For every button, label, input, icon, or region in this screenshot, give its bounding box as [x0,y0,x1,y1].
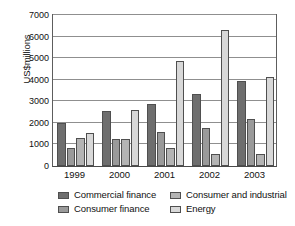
bar [102,111,111,166]
bar-groups [53,15,276,166]
plot-area: 01000200030004000500060007000 [52,14,277,167]
bar [266,77,275,166]
bar [237,81,246,166]
bar [76,138,85,166]
x-axis-tick-label: 2001 [142,170,187,180]
bar [247,119,256,166]
legend-item[interactable]: Commercial finance [58,189,156,201]
x-axis-tick-label: 2003 [232,170,277,180]
bar [131,110,140,166]
x-axis-tick-label: 2002 [187,170,232,180]
bar-group [233,15,278,166]
y-axis-tick-label: 2000 [29,118,49,127]
y-axis-tick-label: 3000 [29,97,49,106]
legend-swatch-icon [170,206,181,213]
legend-item[interactable]: Consumer and industrial [170,189,287,201]
legend-label: Energy [186,204,216,214]
legend-item[interactable]: Energy [170,203,216,215]
bar-group [98,15,143,166]
bar [192,94,201,166]
y-axis-tick-label: 0 [44,162,49,171]
legend-label: Commercial finance [74,190,156,200]
bar [147,104,156,166]
x-axis-tick-label: 1999 [52,170,97,180]
legend-label: Consumer and industrial [186,190,287,200]
bar [221,30,230,166]
bar [166,148,175,166]
bar [256,154,265,166]
bar-chart-figure: US$millions 0100020003000400050006000700… [0,0,295,226]
bar [57,123,66,166]
y-axis-tick-label: 1000 [29,140,49,149]
bar-group [53,15,98,166]
legend-item[interactable]: Consumer finance [58,203,150,215]
chart-legend: Commercial financeConsumer and industria… [58,189,288,219]
bar-group [188,15,233,166]
y-axis-tick-label: 4000 [29,75,49,84]
bar [202,128,211,166]
bar [121,139,130,166]
legend-swatch-icon [170,192,181,199]
bar [67,148,76,166]
legend-label: Consumer finance [74,204,150,214]
legend-swatch-icon [58,206,69,213]
y-axis-tick-label: 5000 [29,54,49,63]
y-axis-tick-label: 7000 [29,11,49,20]
x-axis-tick-label: 2000 [97,170,142,180]
bar-group [143,15,188,166]
bar [176,61,185,166]
y-axis-tick-label: 6000 [29,32,49,41]
legend-swatch-icon [58,192,69,199]
bar [86,133,95,166]
bar [112,139,121,166]
bar [157,132,166,166]
bar [211,154,220,166]
